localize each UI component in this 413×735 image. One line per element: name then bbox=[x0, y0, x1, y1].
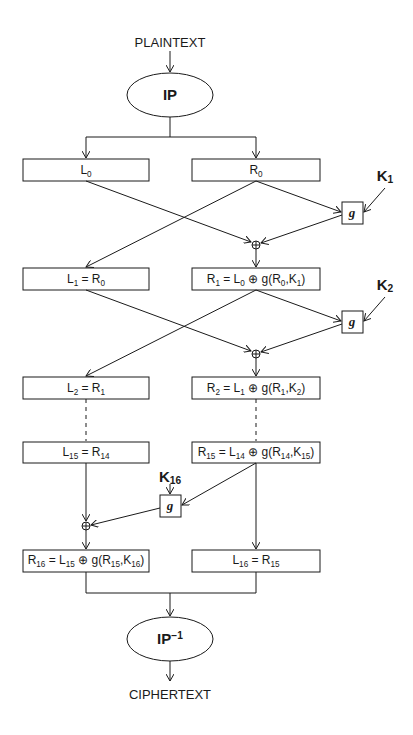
r16-label: R16 = L15 ⊕ g(R15,K16) bbox=[28, 553, 145, 568]
key-k16: K16 bbox=[159, 468, 181, 487]
g-function-16: g bbox=[167, 498, 174, 514]
r15-label: R15 = L14 ⊕ g(R14,K15) bbox=[198, 445, 315, 460]
key-k1: K1 bbox=[377, 167, 394, 186]
l2-label: L2 = R1 bbox=[67, 381, 105, 396]
r2-label: R2 = L1 ⊕ g(R1,K2) bbox=[207, 381, 306, 396]
g-function-1: g bbox=[349, 205, 356, 221]
g-function-2: g bbox=[349, 314, 356, 330]
l16-label: L16 = R15 bbox=[232, 553, 279, 568]
r1-label: R1 = L0 ⊕ g(R0,K1) bbox=[207, 272, 306, 287]
ciphertext-label: CIPHERTEXT bbox=[129, 687, 211, 702]
ip-inverse-label: IP−1 bbox=[157, 630, 183, 647]
des-diagram-lines bbox=[0, 0, 413, 735]
l0-label: L0 bbox=[80, 163, 91, 178]
l15-label: L15 = R14 bbox=[62, 445, 109, 460]
ip-label: IP bbox=[163, 86, 177, 103]
l1-label: L1 = R0 bbox=[67, 272, 105, 287]
key-k2: K2 bbox=[377, 276, 394, 295]
plaintext-label: PLAINTEXT bbox=[135, 35, 206, 50]
r0-label: R0 bbox=[249, 163, 262, 178]
